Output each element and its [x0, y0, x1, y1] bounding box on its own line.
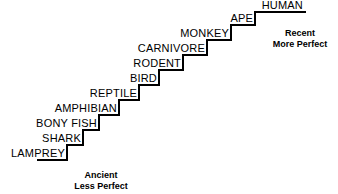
step-label-lamprey: LAMPREY: [11, 148, 65, 159]
caption-right-line-1: Recent: [262, 28, 338, 39]
step-label-monkey: MONKEY: [180, 28, 229, 39]
step-label-shark: SHARK: [42, 133, 81, 144]
step-label-amphibian: AMPHIBIAN: [55, 103, 117, 114]
caption-left-line-1: Ancient: [58, 170, 144, 181]
caption-recent-more-perfect: Recent More Perfect: [262, 28, 338, 50]
evolution-staircase-diagram: LAMPREYSHARKBONY FISHAMPHIBIANREPTILEBIR…: [0, 0, 338, 194]
step-label-bony-fish: BONY FISH: [36, 118, 97, 129]
step-label-rodent: RODENT: [133, 58, 181, 69]
caption-left-line-2: Less Perfect: [58, 181, 144, 192]
step-label-reptile: REPTILE: [90, 88, 137, 99]
step-label-carnivore: CARNIVORE: [138, 43, 205, 54]
step-label-bird: BIRD: [130, 73, 157, 84]
caption-ancient-less-perfect: Ancient Less Perfect: [58, 170, 144, 192]
step-label-ape: APE: [230, 13, 253, 24]
step-label-human: HUMAN: [262, 0, 303, 11]
caption-right-line-2: More Perfect: [262, 39, 338, 50]
